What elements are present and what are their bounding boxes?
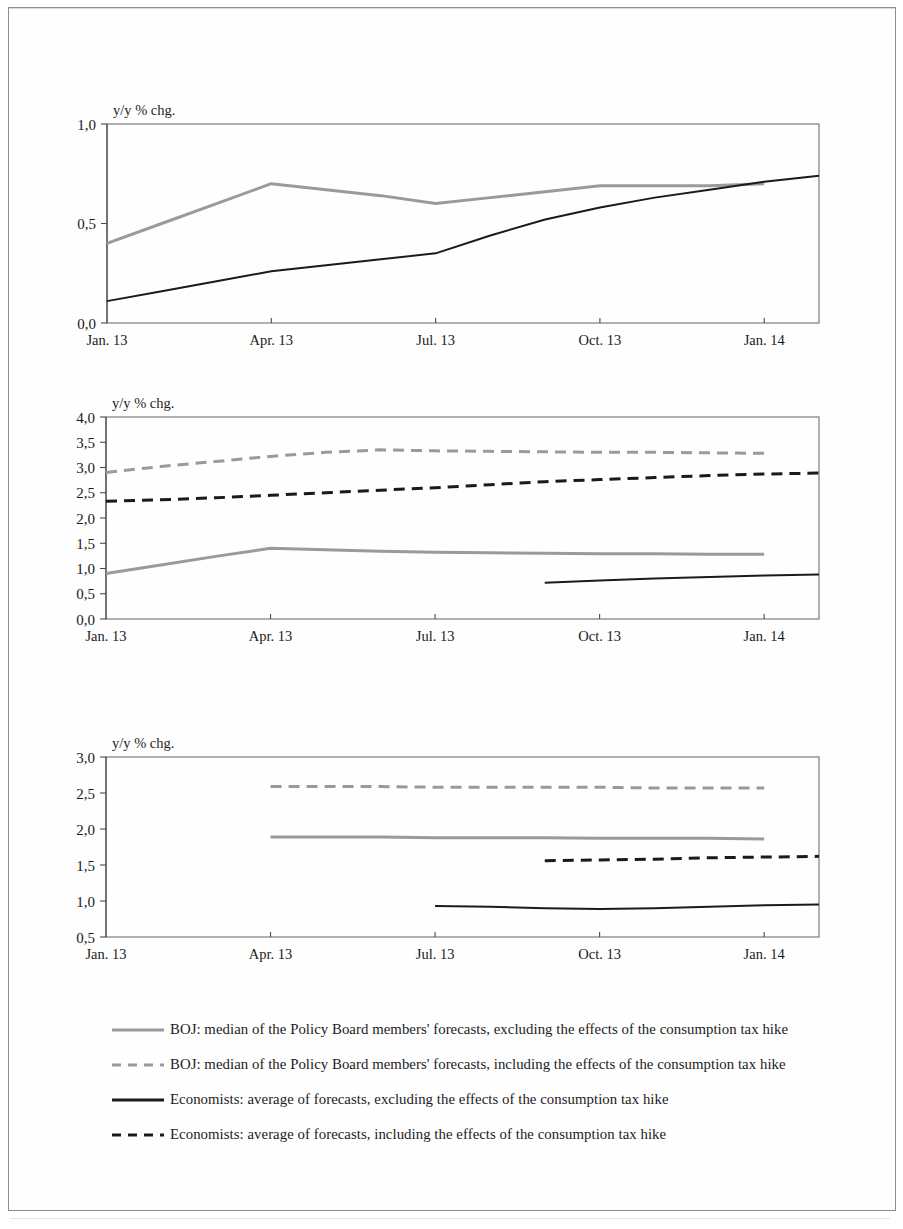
legend-item-economists-excluding: Economists: average of forecasts, exclud… [112, 1082, 812, 1117]
y-tick-label: 0,5 [76, 930, 95, 946]
y-tick-label: 3,5 [76, 435, 95, 451]
x-tick-label: Jul. 13 [416, 628, 455, 644]
legend-label: Economists: average of forecasts, includ… [170, 1126, 666, 1143]
x-tick-label: Jan. 13 [85, 946, 126, 962]
chart-3: y/y % chg.0,51,01,52,02,53,0Jan. 13Apr. … [44, 731, 841, 973]
x-tick-label: Jan. 14 [744, 946, 786, 962]
y-tick-label: 0,0 [76, 612, 95, 628]
y-tick-label: 2,0 [76, 511, 95, 527]
series-line-dashed [545, 856, 819, 860]
x-tick-label: Apr. 13 [249, 946, 293, 962]
series-line-solid [545, 575, 819, 583]
plot-area-border [106, 417, 819, 619]
legend-item-economists-including: Economists: average of forecasts, includ… [112, 1117, 812, 1152]
axis-unit-label: y/y % chg. [113, 102, 175, 118]
y-tick-label: 1,5 [76, 858, 95, 874]
legend-label: BOJ: median of the Policy Board members'… [170, 1021, 788, 1038]
axis-unit-label: y/y % chg. [112, 735, 174, 751]
x-tick-label: Jan. 14 [744, 332, 786, 348]
x-tick-label: Jan. 13 [85, 628, 126, 644]
y-tick-label: 2,5 [76, 786, 95, 802]
x-tick-label: Oct. 13 [578, 628, 621, 644]
series-line-dashed [106, 450, 764, 473]
scan-artifact-bottom [10, 1218, 890, 1219]
chart-plot-2: y/y % chg.0,00,51,01,52,02,53,03,54,0Jan… [44, 391, 841, 655]
y-tick-label: 1,5 [76, 536, 95, 552]
y-tick-label: 2,0 [76, 822, 95, 838]
y-tick-label: 1,0 [76, 561, 95, 577]
y-tick-label: 3,0 [76, 750, 95, 766]
legend-swatch-boj-excluding [112, 1023, 164, 1037]
legend-label: BOJ: median of the Policy Board members'… [170, 1056, 786, 1073]
x-tick-label: Apr. 13 [250, 332, 294, 348]
chart-legend: BOJ: median of the Policy Board members'… [112, 1012, 812, 1152]
y-tick-label: 1,0 [77, 117, 96, 133]
chart-2: y/y % chg.0,00,51,01,52,02,53,03,54,0Jan… [44, 391, 841, 655]
legend-swatch-economists-including [112, 1128, 164, 1142]
legend-swatch-economists-excluding [112, 1093, 164, 1107]
chart-plot-1: y/y % chg.0,00,51,0Jan. 13Apr. 13Jul. 13… [45, 98, 841, 359]
x-tick-label: Apr. 13 [249, 628, 293, 644]
chart-plot-3: y/y % chg.0,51,01,52,02,53,0Jan. 13Apr. … [44, 731, 841, 973]
x-tick-label: Jul. 13 [416, 946, 455, 962]
y-tick-label: 0,5 [76, 586, 95, 602]
chart-1: y/y % chg.0,00,51,0Jan. 13Apr. 13Jul. 13… [45, 98, 841, 359]
x-tick-label: Jul. 13 [416, 332, 455, 348]
legend-item-boj-including: BOJ: median of the Policy Board members'… [112, 1047, 812, 1082]
series-line-solid [435, 905, 819, 909]
series-line-dashed [106, 473, 819, 501]
axis-unit-label: y/y % chg. [112, 395, 174, 411]
series-line-dashed [271, 787, 765, 788]
y-tick-label: 3,0 [76, 460, 95, 476]
scan-artifact-top [9, 8, 895, 9]
legend-label: Economists: average of forecasts, exclud… [170, 1091, 669, 1108]
plot-area-border [107, 124, 819, 323]
series-line-solid [271, 837, 765, 839]
y-tick-label: 2,5 [76, 485, 95, 501]
series-line-solid [107, 184, 764, 244]
y-tick-label: 4,0 [76, 410, 95, 426]
x-tick-label: Jan. 14 [744, 628, 786, 644]
y-tick-label: 0,0 [77, 316, 96, 332]
x-tick-label: Oct. 13 [579, 332, 622, 348]
series-line-solid [107, 176, 819, 301]
y-tick-label: 0,5 [77, 216, 96, 232]
legend-item-boj-excluding: BOJ: median of the Policy Board members'… [112, 1012, 812, 1047]
y-tick-label: 1,0 [76, 894, 95, 910]
x-tick-label: Oct. 13 [578, 946, 621, 962]
plot-area-border [106, 757, 819, 937]
x-tick-label: Jan. 13 [86, 332, 127, 348]
legend-swatch-boj-including [112, 1058, 164, 1072]
series-line-solid [106, 548, 764, 573]
